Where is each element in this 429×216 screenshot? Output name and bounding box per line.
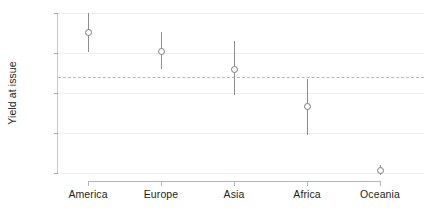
x-tick-label: Asia [224,188,245,200]
x-tick-label: Oceania [360,188,400,200]
y-tick-mark [54,93,58,94]
x-tick-label: Africa [293,188,320,200]
gridline [58,133,424,134]
point-marker [85,29,92,36]
y-tick-mark [54,13,58,14]
gridline [58,173,424,174]
point-marker [231,66,238,73]
plot-area: 44.555.56 [58,13,424,173]
point-marker [304,103,311,110]
x-tick-label: America [68,188,107,200]
x-tick-mark [307,181,308,186]
yield-at-issue-chart: Yield at issue 44.555.56 AmericaEuropeAs… [0,0,429,216]
x-tick-mark [88,181,89,186]
y-tick-mark [54,53,58,54]
y-tick-mark [54,133,58,134]
point-marker [158,48,165,55]
y-tick-mark [54,173,58,174]
y-axis-label-text: Yield at issue [6,61,18,124]
gridline [58,93,424,94]
x-tick-mark [234,181,235,186]
x-tick-label: Europe [144,188,178,200]
y-axis-label: Yield at issue [0,0,24,186]
x-tick-mark [380,181,381,186]
x-tick-mark [161,181,162,186]
point-marker [377,167,384,174]
gridline [58,53,424,54]
gridline [58,13,424,14]
reference-line [58,77,424,78]
